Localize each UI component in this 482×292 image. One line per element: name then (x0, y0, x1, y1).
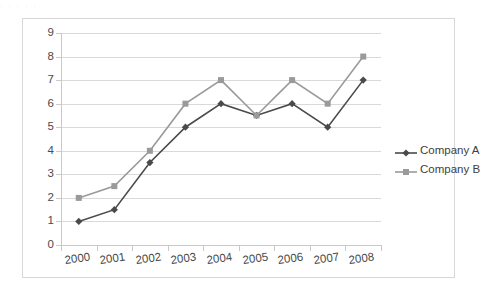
chart-legend: Company ACompany B (395, 141, 482, 179)
y-axis-tick (56, 80, 61, 81)
data-point-square (111, 183, 117, 189)
data-point-square (289, 77, 295, 83)
x-axis-tick (132, 245, 133, 251)
legend-label: Company A (420, 145, 479, 157)
legend-label: Company B (420, 164, 480, 176)
legend-marker-icon (395, 164, 417, 176)
y-axis-tick (56, 104, 61, 105)
x-axis-tick (97, 245, 98, 251)
data-point-diamond (75, 218, 82, 225)
y-axis-tick (56, 57, 61, 58)
x-axis-tick (381, 245, 382, 251)
data-point-square (360, 54, 366, 60)
series-layer (23, 19, 456, 279)
y-axis-tick (56, 33, 61, 34)
data-point-square (182, 101, 188, 107)
y-axis-tick (56, 221, 61, 222)
data-point-square (254, 112, 260, 118)
data-point-square (76, 195, 82, 201)
y-axis-tick (56, 198, 61, 199)
x-axis-tick (168, 245, 169, 251)
top-edge-text-bleed: . . . . . (0, 0, 482, 7)
data-point-square (147, 148, 153, 154)
legend-item[interactable]: Company B (395, 160, 482, 179)
x-axis-tick (345, 245, 346, 251)
y-axis-tick (56, 151, 61, 152)
x-axis-tick (61, 245, 62, 251)
legend-marker-icon (395, 145, 417, 157)
legend-item[interactable]: Company A (395, 141, 482, 160)
chart-container: 0123456789 Company ACompany B 2000200120… (22, 18, 455, 278)
y-axis-tick (56, 127, 61, 128)
x-axis-tick (274, 245, 275, 251)
x-axis-tick (239, 245, 240, 251)
series-company-b (76, 54, 366, 201)
y-axis-tick (56, 174, 61, 175)
data-point-square (325, 101, 331, 107)
series-company-a (75, 77, 367, 226)
x-axis-tick (203, 245, 204, 251)
x-axis-tick (310, 245, 311, 251)
data-point-square (218, 77, 224, 83)
